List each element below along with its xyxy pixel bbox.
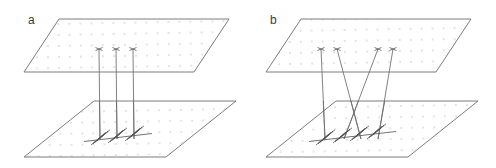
upper-plane-surface	[24, 19, 229, 72]
panel-b-upper-plane	[266, 19, 471, 72]
panel-a-upper-plane	[24, 19, 229, 72]
tether-line	[117, 101, 118, 139]
figure-canvas: a	[0, 0, 496, 168]
tether-line	[100, 101, 101, 139]
panel-b-label: b	[270, 13, 277, 27]
upper-plane-surface	[266, 19, 471, 72]
panel-a-label: a	[28, 13, 35, 27]
